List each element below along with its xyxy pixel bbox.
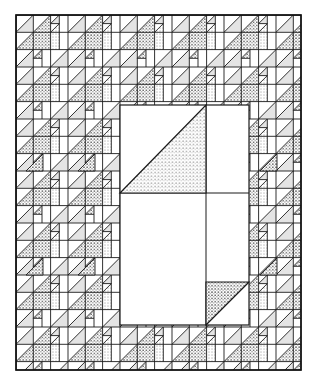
center-panel <box>120 105 249 325</box>
quilt-figure: Quilt pattern line drawing with repeatin… <box>0 0 315 387</box>
quilt-drawing <box>0 0 315 387</box>
